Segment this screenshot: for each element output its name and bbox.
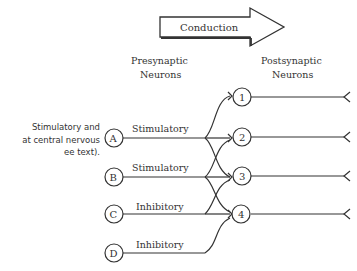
presynaptic-neuron-D: D (105, 244, 123, 262)
postsynaptic-neuron-3: 3 (233, 167, 251, 185)
presynaptic-header-line1: Presynaptic (131, 55, 188, 66)
postsynaptic-header-line1: Postsynaptic (261, 55, 322, 66)
svg-text:B: B (110, 172, 117, 183)
neuron-D-type: Inhibitory (136, 239, 184, 250)
synapse-diagram: Conduction Presynaptic Neurons Postsynap… (0, 0, 357, 271)
presynaptic-neuron-A: A (105, 129, 123, 147)
neuron-A-type: Stimulatory (132, 123, 189, 134)
postsynaptic-neuron-1: 1 (233, 88, 251, 106)
presynaptic-header-line2: Neurons (140, 69, 181, 80)
svg-text:2: 2 (239, 132, 245, 143)
svg-text:4: 4 (238, 209, 244, 220)
presynaptic-neuron-B: B (105, 168, 123, 186)
presynaptic-neuron-C: C (105, 205, 123, 223)
postsynaptic-neuron-4: 4 (232, 205, 250, 223)
neuron-B-type: Stimulatory (132, 162, 189, 173)
svg-text:1: 1 (239, 92, 245, 103)
svg-text:A: A (109, 133, 118, 144)
conduction-label: Conduction (180, 22, 239, 33)
svg-text:3: 3 (239, 171, 245, 182)
svg-text:D: D (110, 248, 118, 259)
postsynaptic-neuron-2: 2 (233, 128, 251, 146)
postsynaptic-header-line2: Neurons (272, 69, 313, 80)
neuron-C-type: Inhibitory (136, 201, 184, 212)
svg-text:C: C (110, 209, 118, 220)
